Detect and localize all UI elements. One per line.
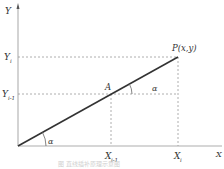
point-a-label: A [104, 82, 111, 92]
x-axis-label: X [215, 150, 222, 159]
figure-caption: 图 直线插补原理示意图 [58, 160, 120, 168]
x-i-sub: i [180, 157, 182, 163]
alpha-origin-label: α [48, 137, 54, 146]
interpolation-line [18, 57, 178, 146]
y-i-sub: i [10, 58, 12, 64]
angle-arc-origin [43, 132, 47, 146]
axes [17, 3, 223, 146]
angle-arc-a [129, 84, 132, 94]
point-p-label: P(x,y) [171, 43, 197, 53]
y-i-1-sub: i-1 [8, 95, 15, 101]
y-axis-arrow-icon [17, 3, 20, 9]
line-interpolation-diagram: Y X Y i Y i-1 X i-1 X i P(x,y) A α α 图 直… [0, 0, 224, 169]
alpha-a-label: α [152, 84, 158, 93]
y-axis-label: Y [5, 6, 12, 16]
